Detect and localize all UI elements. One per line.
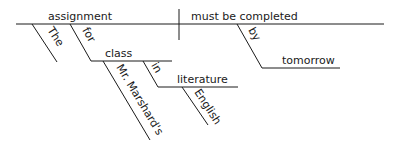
prep3-object-word: tomorrow — [282, 54, 335, 67]
subject-word: assignment — [48, 10, 113, 23]
article-word: The — [44, 24, 67, 49]
prep1-object-word: class — [105, 47, 133, 60]
predicate-word: must be completed — [191, 10, 298, 23]
prep2-object-modifier-word: English — [191, 87, 224, 127]
prep1-object-modifier-word: Mr. Marshard's — [113, 62, 166, 138]
prep3-word: by — [245, 25, 263, 44]
sentence-diagram: assignment must be completed The for cla… — [0, 0, 399, 147]
prep1-word: for — [79, 25, 98, 45]
prep2-object-word: literature — [177, 73, 228, 86]
prep2-word: in — [148, 60, 164, 75]
